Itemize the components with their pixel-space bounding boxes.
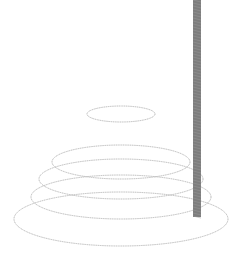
ring-3 <box>39 159 203 199</box>
ring-2 <box>52 145 190 179</box>
ring-top-small <box>87 106 155 122</box>
pole <box>193 0 201 218</box>
ring-scene <box>0 0 249 260</box>
